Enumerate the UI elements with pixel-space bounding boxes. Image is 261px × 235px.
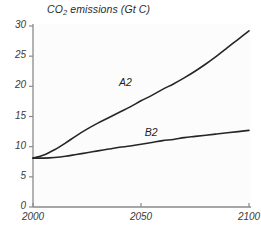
y-axis-tick-label: 15 [4, 110, 26, 121]
y-axis-tick-label: 10 [4, 140, 26, 151]
y-axis-tick-label: 0 [4, 200, 26, 211]
y-axis-tick-label: 30 [4, 19, 26, 30]
x-axis-tick-label: 2000 [13, 211, 53, 222]
series-label-a2: A2 [119, 76, 132, 88]
y-axis-tick-label: 20 [4, 79, 26, 90]
y-axis-tick-label: 25 [4, 49, 26, 60]
chart-plot-svg [0, 0, 261, 235]
chart-container: CO2 emissions (Gt C) 051015202530 200020… [0, 0, 261, 235]
data-series-group [33, 31, 249, 158]
series-label-b2: B2 [145, 126, 158, 138]
axes [29, 24, 251, 207]
series-line-b2 [33, 130, 249, 158]
x-axis-tick-label: 2050 [121, 211, 161, 222]
y-axis-tick-label: 5 [4, 170, 26, 181]
series-line-a2 [33, 31, 249, 158]
x-axis-tick-label: 2100 [229, 211, 261, 222]
